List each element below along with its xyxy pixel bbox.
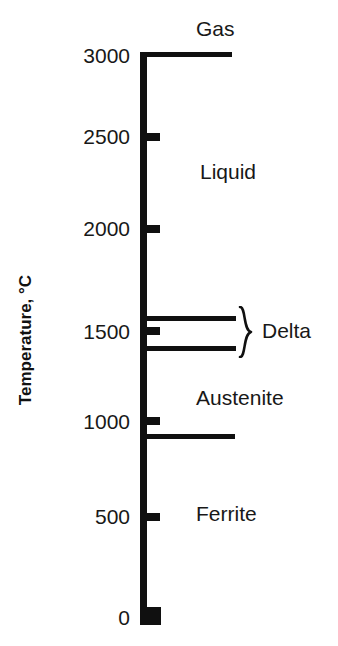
tick-label-500: 500 (38, 506, 130, 527)
phase-label-austenite: Austenite (196, 387, 284, 409)
gas-boundary-line (140, 52, 232, 57)
iron-phase-temperature-chart: Temperature, °C 3000 2500 2000 1500 1000… (0, 0, 338, 646)
phase-label-delta: Delta (262, 320, 311, 342)
phase-label-ferrite: Ferrite (196, 503, 257, 525)
tick-mark-2000 (145, 225, 160, 233)
tick-label-2000: 2000 (38, 218, 130, 239)
tick-label-1500: 1500 (38, 321, 130, 342)
phase-label-gas: Gas (196, 18, 235, 40)
tick-label-3000: 3000 (38, 45, 130, 66)
tick-label-2500: 2500 (38, 126, 130, 147)
axis-bottom-foot (140, 607, 161, 625)
tick-label-0: 0 (38, 607, 130, 628)
austenite-lower-boundary-line (140, 434, 235, 439)
delta-lower-boundary-line (140, 346, 236, 351)
tick-mark-1000 (145, 417, 160, 425)
y-axis-title: Temperature, °C (16, 230, 36, 450)
delta-brace-icon (238, 306, 254, 358)
tick-label-1000: 1000 (38, 411, 130, 432)
tick-mark-2500 (145, 133, 160, 141)
phase-label-liquid: Liquid (200, 161, 256, 183)
delta-upper-boundary-line (140, 316, 236, 321)
tick-mark-1500 (145, 327, 160, 335)
tick-mark-500 (145, 513, 160, 521)
